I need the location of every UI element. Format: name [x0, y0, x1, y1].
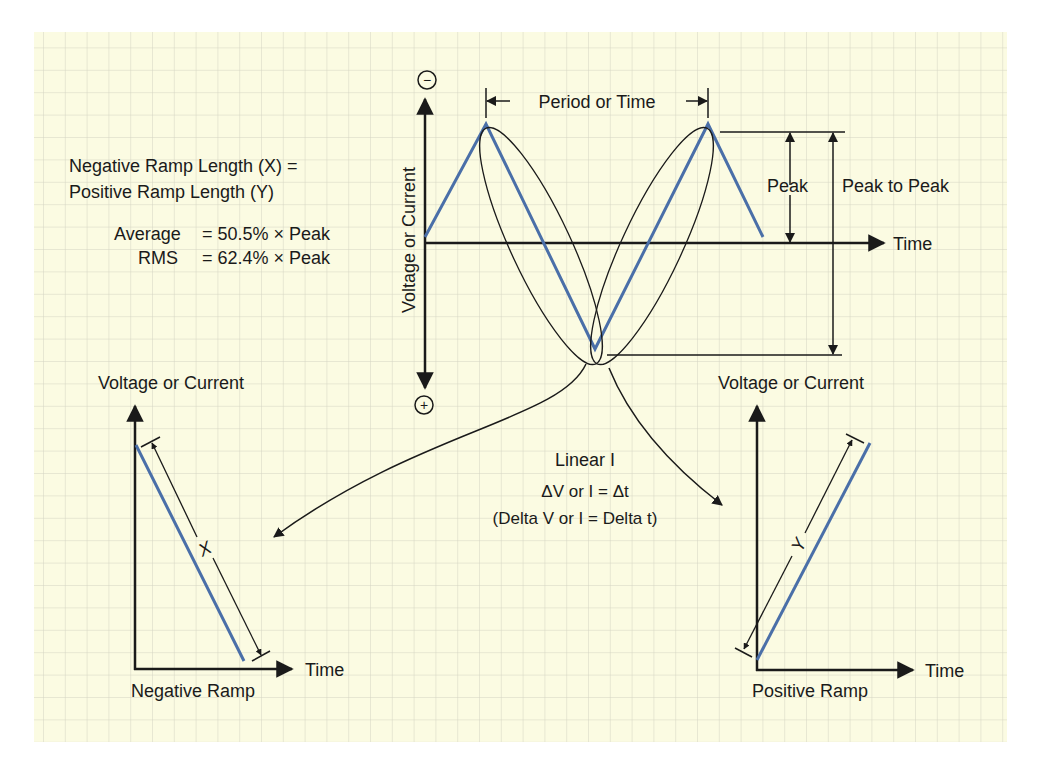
- note-line-1: Negative Ramp Length (X) =: [69, 156, 298, 176]
- rms-label: RMS: [138, 248, 178, 268]
- sawtooth-waveform-diagram: Time Voltage or Current − + Period or Ti…: [0, 0, 1042, 770]
- svg-text:−: −: [423, 72, 431, 88]
- svg-text:Period or Time: Period or Time: [538, 92, 655, 112]
- svg-text:ΔV or I = Δt: ΔV or I = Δt: [541, 482, 629, 501]
- svg-text:(Delta V or I = Delta t): (Delta V or I = Delta t): [493, 509, 658, 528]
- positive-ramp-x-label: Time: [925, 661, 964, 681]
- x-axis-label: Time: [893, 234, 932, 254]
- negative-ramp-x-label: Time: [305, 660, 344, 680]
- positive-ramp-caption: Positive Ramp: [752, 681, 868, 701]
- negative-ramp-caption: Negative Ramp: [131, 681, 255, 701]
- svg-text:Peak: Peak: [767, 176, 809, 196]
- rms-value: = 62.4% × Peak: [202, 248, 331, 268]
- negative-polarity-icon: −: [418, 71, 436, 89]
- average-value: = 50.5% × Peak: [202, 224, 331, 244]
- positive-polarity-icon: +: [415, 396, 433, 414]
- negative-ramp-y-label: Voltage or Current: [98, 373, 244, 393]
- average-label: Average: [114, 224, 181, 244]
- svg-text:+: +: [420, 397, 428, 413]
- positive-ramp-y-label: Voltage or Current: [718, 373, 864, 393]
- svg-text:Linear I: Linear I: [555, 450, 615, 470]
- svg-text:Peak to Peak: Peak to Peak: [842, 176, 950, 196]
- y-axis-label: Voltage or Current: [399, 167, 419, 313]
- note-line-2: Positive Ramp Length (Y): [69, 182, 274, 202]
